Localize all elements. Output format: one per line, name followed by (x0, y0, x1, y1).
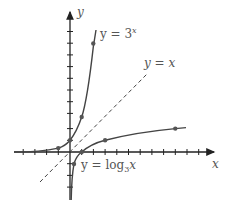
exponential-curve (14, 30, 96, 152)
x-axis-label: x (212, 157, 219, 171)
y-axis (67, 12, 73, 200)
identity-line-label: y = x (143, 56, 175, 70)
exp-points (56, 41, 95, 150)
y-axis-label: y (76, 5, 84, 19)
log-curve-label: y = log3x (80, 158, 136, 174)
graph-canvas: y x y = 3x y = x y = log3x (0, 0, 232, 213)
exp-curve-label: y = 3x (99, 26, 137, 41)
